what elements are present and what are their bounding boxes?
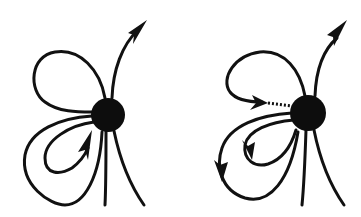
left-tail-2 <box>114 131 144 205</box>
right-outer-arrow-icon <box>214 160 228 182</box>
right-upper-loop <box>227 52 305 102</box>
right-panel <box>214 20 347 205</box>
right-tail-1 <box>302 130 306 205</box>
left-tail-1 <box>105 132 106 205</box>
left-ball <box>91 98 125 132</box>
left-upper-loop <box>34 52 105 112</box>
left-outer-lower-loop <box>24 116 102 205</box>
right-dotted-segment <box>268 103 292 106</box>
right-outgoing-line <box>315 38 337 96</box>
right-inner-lower-loop <box>245 120 296 165</box>
diagram-canvas <box>0 0 361 217</box>
right-outer-lower-loop <box>220 113 298 199</box>
left-panel <box>24 20 147 205</box>
right-up-arrow-icon <box>327 20 347 46</box>
right-tail-2 <box>314 130 344 205</box>
right-ball <box>290 95 326 131</box>
